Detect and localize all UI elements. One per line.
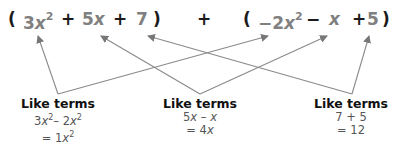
arrow-to-x: [200, 36, 327, 94]
group-title: Like terms: [296, 96, 395, 111]
arrow-to-3x2: [38, 36, 58, 94]
group-result: = 4x: [145, 124, 255, 137]
arrow-to-neg2x2: [58, 36, 268, 94]
group-result: = 1x2: [3, 128, 113, 145]
like-terms-group-x-squared: Like terms 3x2– 2x2 = 1x2: [3, 96, 113, 145]
arrow-to-7: [148, 36, 352, 94]
arrow-to-5: [352, 36, 369, 94]
group-title: Like terms: [145, 96, 255, 111]
like-terms-group-x: Like terms 5x – x = 4x: [145, 96, 255, 137]
group-title: Like terms: [3, 96, 113, 111]
like-terms-group-constants: Like terms 7 + 5 = 12: [296, 96, 395, 137]
group-result: = 12: [296, 124, 395, 137]
arrow-to-5x: [101, 36, 200, 94]
group-expression: 3x2– 2x2: [3, 111, 113, 128]
